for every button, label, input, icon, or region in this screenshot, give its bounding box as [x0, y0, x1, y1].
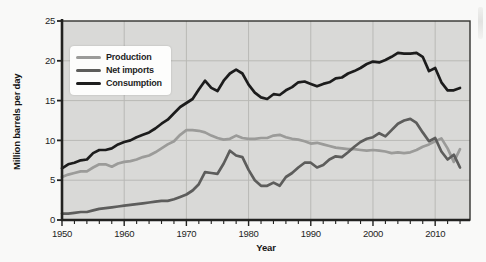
y-tick-label: 5 [50, 174, 55, 185]
production-line-swatch [76, 56, 101, 59]
legend-label-consumption: Consumption [106, 79, 162, 88]
x-axis-title: Year [62, 243, 470, 253]
chart-figure: 05101520251950196019701980199020002010 P… [0, 0, 486, 262]
x-tick-label: 1960 [114, 228, 134, 239]
x-tick-label: 1980 [239, 228, 259, 239]
legend-item-production: Production [76, 53, 171, 62]
y-axis-title: Million barrels per day [12, 55, 22, 189]
scan-artifact [478, 7, 483, 39]
x-tick-label: 2010 [425, 228, 445, 239]
legend-label-net-imports: Net imports [106, 66, 154, 75]
y-tick-label: 15 [45, 95, 55, 106]
legend-item-consumption: Consumption [76, 79, 171, 88]
net-imports-line-swatch [76, 69, 101, 72]
x-tick-label: 1950 [52, 228, 72, 239]
y-tick-label: 25 [45, 15, 55, 26]
legend: Production Net imports Consumption [70, 46, 171, 95]
chart-canvas: 05101520251950196019701980199020002010 [0, 0, 486, 262]
x-tick-label: 1970 [176, 228, 196, 239]
y-tick-label: 0 [50, 214, 55, 225]
y-tick-label: 20 [45, 55, 55, 66]
x-tick-label: 1990 [301, 228, 321, 239]
consumption-line-swatch [76, 82, 101, 85]
y-tick-label: 10 [45, 135, 55, 146]
legend-label-production: Production [106, 53, 152, 62]
x-tick-label: 2000 [363, 228, 383, 239]
legend-item-net-imports: Net imports [76, 66, 171, 75]
